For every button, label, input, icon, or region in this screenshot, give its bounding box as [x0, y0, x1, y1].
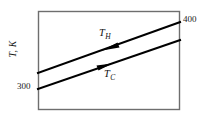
plot-area [0, 0, 204, 121]
heat-exchanger-temperature-chart: T, K 300 400 TH TC [0, 0, 204, 121]
cold-stream-label: TC [104, 68, 115, 79]
cold-stream-subscript: C [110, 73, 115, 82]
hot-stream-symbol: T [99, 27, 105, 38]
hot-stream-label: TH [99, 27, 110, 38]
cold-stream-symbol: T [104, 68, 110, 79]
hot-stream-subscript: H [105, 32, 110, 41]
y-tick-label-high: 400 [183, 14, 197, 24]
y-tick-label-low: 300 [17, 81, 31, 91]
y-axis-label: T, K [8, 27, 18, 71]
